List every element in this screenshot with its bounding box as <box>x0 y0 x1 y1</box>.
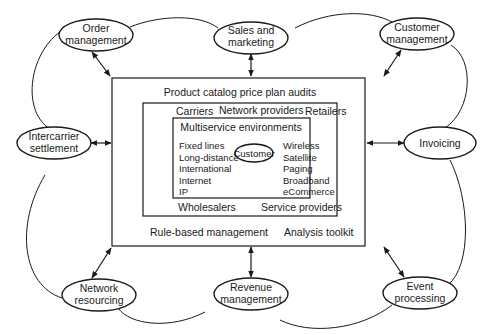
node-label: Sales and <box>228 24 275 36</box>
service-item: Long-distance <box>179 152 239 163</box>
carriers-label: Carriers <box>176 105 213 117</box>
service-item: Broadband <box>283 175 329 186</box>
service-item: Wireless <box>283 140 320 151</box>
node-label: Revenue <box>230 281 272 293</box>
node-label: Intercarrier <box>29 130 80 142</box>
node-label: Event <box>407 280 434 292</box>
node-label: management <box>386 33 447 45</box>
node-order-management: Order management <box>59 19 133 51</box>
node-invoicing: Invoicing <box>404 127 476 159</box>
node-intercarrier-settlement: Intercarrier settlement <box>17 127 91 159</box>
node-label: resourcing <box>74 294 123 306</box>
node-sales-marketing: Sales and marketing <box>214 22 288 54</box>
customer-label: Customer <box>233 148 274 159</box>
node-label: management <box>220 293 281 305</box>
service-item: Satellite <box>283 152 317 163</box>
node-label: processing <box>395 292 446 304</box>
node-label: Invoicing <box>419 137 461 149</box>
retailers-label: Retailers <box>305 105 346 117</box>
node-network-resourcing: Network resourcing <box>62 279 136 311</box>
node-label: Customer <box>394 21 440 33</box>
service-item: Internet <box>179 175 212 186</box>
inner-box-title: Multiservice environments <box>180 121 301 133</box>
node-revenue-management: Revenue management <box>214 278 288 310</box>
service-item: International <box>179 163 231 174</box>
wholesalers-label: Wholesalers <box>178 201 236 213</box>
service-item: IP <box>179 186 188 197</box>
service-providers-label: Service providers <box>261 201 342 213</box>
node-event-processing: Event processing <box>383 277 457 309</box>
network-providers-label: Network providers <box>219 104 304 116</box>
service-item: eCommerce <box>283 186 335 197</box>
node-label: settlement <box>30 142 79 154</box>
node-label: management <box>65 34 126 46</box>
analysis-toolkit-label: Analysis toolkit <box>284 226 354 238</box>
outer-box-title: Product catalog price plan audits <box>164 86 316 98</box>
rule-based-label: Rule-based management <box>150 226 268 238</box>
diagram-canvas: Product catalog price plan audits Rule-b… <box>0 0 486 335</box>
service-item: Fixed lines <box>179 140 225 151</box>
node-customer-management: Customer management <box>380 18 454 50</box>
node-label: marketing <box>228 36 274 48</box>
arrows <box>91 50 404 278</box>
node-label: Network <box>80 282 119 294</box>
left-services: Fixed lines Long-distance International … <box>179 140 239 197</box>
node-label: Order <box>83 22 110 34</box>
right-services: Wireless Satellite Paging Broadband eCom… <box>283 140 335 197</box>
service-item: Paging <box>283 163 313 174</box>
